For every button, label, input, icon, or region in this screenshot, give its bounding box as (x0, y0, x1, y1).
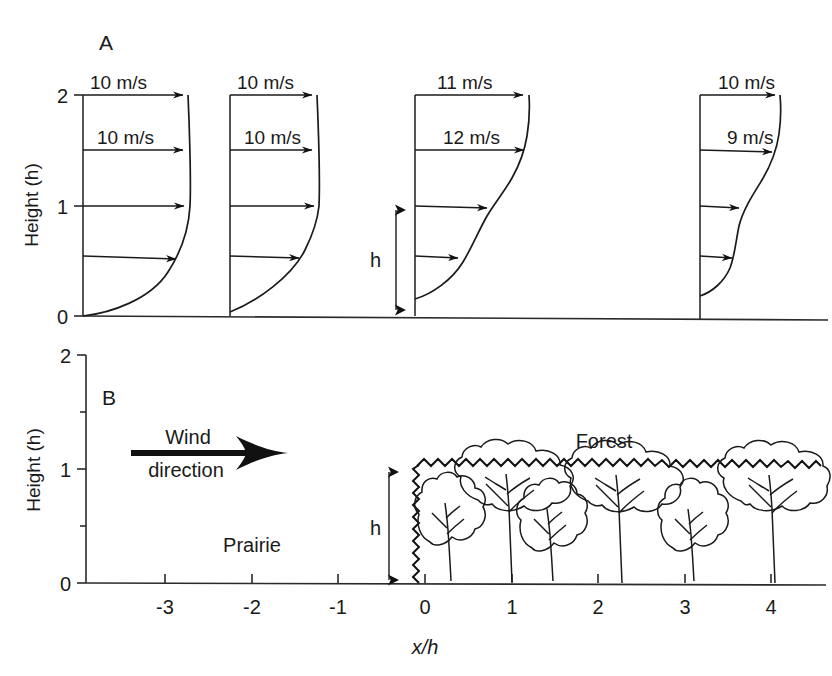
profile-2-arrow-h0p5 (230, 256, 299, 258)
profile-2-speed-label-lower: 10 m/s (244, 127, 301, 148)
panel-b-ytick-label-2: 2 (60, 345, 71, 367)
panel-b-h-label: h (370, 517, 381, 539)
panel-b-y-axis-title: Height (h) (23, 428, 44, 511)
wind-arrow-shaft (131, 450, 246, 456)
panel-b-xtick-label-m3: -3 (156, 596, 174, 618)
profile-4-speed-label-lower: 9 m/s (727, 127, 773, 148)
panel-b-xtick-label-2: 2 (592, 596, 603, 618)
profile-1-speed-label-upper: 10 m/s (90, 72, 147, 93)
panel-a-letter: A (99, 31, 113, 54)
figure-canvas: A Height (h) 2 1 0 10 m/s 10 m/s 10 m/s … (0, 0, 832, 676)
panel-b-x-axis-title: x/h (411, 636, 439, 658)
panel-a-ytick-label-1: 1 (57, 196, 68, 218)
panel-b-xtick-label-m1: -1 (329, 596, 347, 618)
panel-a-y-axis-title: Height (h) (21, 163, 42, 246)
profile-1-speed-label-lower: 10 m/s (97, 127, 154, 148)
forest-label: Forest (576, 430, 633, 452)
panel-a-ytick-label-2: 2 (57, 85, 68, 107)
prairie-label: Prairie (223, 534, 281, 556)
panel-b-letter: B (102, 386, 116, 409)
tree-canopy-1 (455, 439, 573, 582)
profile-4-arrow-h1p6 (700, 150, 772, 152)
profile-3-curve (415, 95, 529, 299)
panel-b-xtick-label-1: 1 (506, 596, 517, 618)
panel-b-xtick-label-3: 3 (679, 596, 690, 618)
profile-4-arrow-h1 (700, 206, 739, 208)
wind-label-bottom: direction (148, 459, 224, 481)
profile-3-speed-label-upper: 11 m/s (437, 72, 493, 93)
profile-1-arrow-h0p5 (83, 256, 176, 259)
tree-shrub-1 (415, 472, 485, 581)
figure-root: A Height (h) 2 1 0 10 m/s 10 m/s 10 m/s … (0, 0, 832, 676)
panel-b-x-axis (86, 583, 826, 585)
profile-2-speed-label-upper: 10 m/s (237, 72, 294, 93)
panel-b-ytick-label-1: 1 (60, 459, 71, 481)
panel-b-ytick-label-0: 0 (60, 573, 71, 595)
panel-a-ytick-label-0: 0 (57, 306, 68, 328)
panel-b-xtick-label-0: 0 (419, 596, 430, 618)
profile-4-arrow-h0p5 (700, 256, 732, 258)
wind-label-top: Wind (165, 426, 211, 448)
panel-b-xtick-label-m2: -2 (243, 596, 261, 618)
tree-shrub-3 (658, 478, 728, 581)
panel-a-ground-line (83, 316, 828, 320)
forest-canopy-top-zigzag (417, 459, 821, 468)
profile-3-arrow-h1 (415, 206, 487, 208)
profile-4-curve (700, 95, 781, 296)
panel-b-xtick-label-4: 4 (765, 596, 776, 618)
profile-3-arrow-h0p5 (415, 256, 458, 258)
panel-a-h-label: h (370, 249, 381, 271)
profile-3-speed-label-lower: 12 m/s (443, 127, 500, 148)
profile-4-speed-label-upper: 10 m/s (718, 72, 775, 93)
